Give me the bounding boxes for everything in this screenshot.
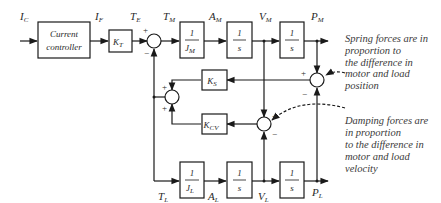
sum1-plus-sign: + <box>143 25 148 35</box>
signal-te: TE <box>130 10 141 24</box>
integrator-al-den: s <box>238 183 242 193</box>
damping-pointer <box>272 104 345 120</box>
velocity-plus-sign: + <box>272 111 277 121</box>
inv-jm-num: 1 <box>190 28 195 38</box>
spring-annotation: Spring forces are in proportion to the d… <box>344 33 428 91</box>
signal-vl: VL <box>258 190 269 203</box>
kcv-out-arrow <box>172 104 201 124</box>
svg-text:motor and load: motor and load <box>345 68 411 79</box>
pm-tap-dot <box>316 40 319 43</box>
controller-label-line2: controller <box>46 42 82 52</box>
signal-ic: IC <box>19 10 29 24</box>
integrator-vl-num: 1 <box>290 168 295 178</box>
signal-al: AL <box>207 190 219 203</box>
svg-text:velocity: velocity <box>345 163 378 174</box>
integrator-am-num: 1 <box>237 28 242 38</box>
coupling-sum-plus-top: + <box>162 82 167 92</box>
ks-out-arrow <box>172 80 201 90</box>
integrator-vl-den: s <box>290 183 294 193</box>
controller-label-line1: Current <box>50 29 79 39</box>
svg-text:to the difference in: to the difference in <box>345 139 424 150</box>
integrator-vm-den: s <box>290 43 294 53</box>
position-summing-junction <box>310 73 324 87</box>
svg-text:motor and load: motor and load <box>345 151 411 162</box>
svg-text:in proportion: in proportion <box>345 127 401 138</box>
signal-pl: PL <box>311 186 323 200</box>
signal-tm: TM <box>163 10 176 24</box>
inv-jl-num: 1 <box>190 168 195 178</box>
velocity-summing-junction <box>257 117 271 131</box>
signal-am: AM <box>208 10 223 24</box>
sum1-minus-sign: − <box>144 48 149 58</box>
spring-pointer <box>326 72 345 75</box>
signal-tl: TL <box>158 190 168 203</box>
integrator-am-den: s <box>238 43 242 53</box>
signal-vm: VM <box>259 10 273 24</box>
position-minus-sign: − <box>302 89 307 99</box>
svg-text:position: position <box>344 80 379 91</box>
svg-text:Spring forces are in: Spring forces are in <box>345 33 428 44</box>
position-plus-sign: + <box>301 68 306 78</box>
integrator-al-num: 1 <box>237 168 242 178</box>
velocity-minus-sign: − <box>272 129 277 139</box>
svg-text:the difference in: the difference in <box>345 57 413 68</box>
svg-text:Damping forces are: Damping forces are <box>344 115 429 126</box>
torque-summing-junction <box>147 34 161 48</box>
spring-damping-summing-junction <box>165 90 179 104</box>
coupling-dot <box>153 96 156 99</box>
pl-tap-dot <box>316 180 319 183</box>
vl-tap-dot <box>263 180 266 183</box>
integrator-vm-num: 1 <box>290 28 295 38</box>
svg-text:proportion to: proportion to <box>344 45 401 56</box>
vm-tap-dot <box>263 40 266 43</box>
damping-annotation: Damping forces are in proportion to the … <box>344 115 429 174</box>
two-mass-block-diagram: Current controller KT 1 JM 1 s 1 s KS KC… <box>0 0 441 203</box>
current-controller-block <box>38 22 90 58</box>
signal-if: IF <box>94 10 104 24</box>
coupling-sum-plus-bottom: + <box>162 103 167 113</box>
signal-pm: PM <box>310 10 325 24</box>
